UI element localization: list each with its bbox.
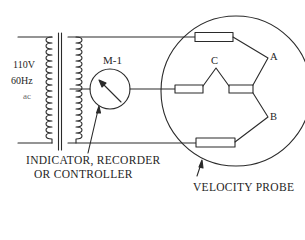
resistor-top <box>195 33 233 42</box>
junction-b-wires <box>235 93 268 142</box>
transformer-core <box>59 33 62 150</box>
junction-a-wires <box>233 37 268 85</box>
meter-caption-leader <box>88 106 101 153</box>
meter-caption-line2: OR CONTROLLER <box>34 169 133 181</box>
source-voltage-label: 110V <box>13 60 35 70</box>
meter-caption-line1: INDICATOR, RECORDER <box>26 155 161 167</box>
probe-caption-leader <box>197 160 203 176</box>
source-type-label: ac <box>23 92 31 101</box>
source-frequency-label: 60Hz <box>11 76 33 86</box>
junction-a-label: A <box>270 52 278 63</box>
meter-m1 <box>90 69 130 109</box>
junction-c-label: C <box>211 56 218 67</box>
resistor-middle-right <box>229 85 253 93</box>
transformer-primary-coil <box>18 37 52 143</box>
probe-caption: VELOCITY PROBE <box>193 182 294 194</box>
resistor-middle-left <box>175 85 203 93</box>
meter-label: M-1 <box>103 55 122 66</box>
junction-b-label: B <box>270 112 277 123</box>
junction-c-wires <box>203 68 229 86</box>
resistor-bottom <box>196 138 235 147</box>
transformer-secondary-coil <box>76 37 82 143</box>
